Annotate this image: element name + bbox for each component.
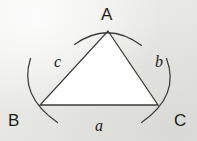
triangle-figure: A B C a b c	[0, 0, 197, 141]
vertex-label-b: B	[8, 112, 19, 129]
side-label-b: b	[155, 54, 163, 70]
vertex-label-a: A	[101, 6, 112, 23]
side-label-a: a	[95, 118, 103, 134]
side-label-c: c	[54, 54, 61, 70]
vertex-label-c: C	[174, 112, 186, 129]
